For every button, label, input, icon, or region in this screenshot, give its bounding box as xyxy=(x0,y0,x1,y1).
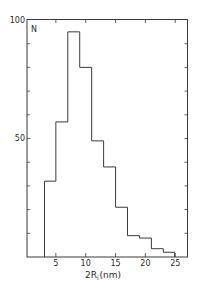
x-tick-label: 15 xyxy=(110,259,120,268)
x-tick-labels: 510152025 xyxy=(53,259,180,268)
y-tick-label-50: 50 xyxy=(15,134,25,143)
x-tick-label: 20 xyxy=(140,259,150,268)
y-axis-title: N xyxy=(31,25,37,34)
x-axis-title-unit: (nm) xyxy=(100,270,122,280)
x-axis-title: 2Ri(nm) xyxy=(85,270,121,281)
axis-ticks xyxy=(27,20,188,258)
x-tick-label: 10 xyxy=(81,259,91,268)
x-tick-label: 25 xyxy=(170,259,180,268)
histogram-outline xyxy=(45,32,175,257)
x-axis-title-main: 2R xyxy=(85,270,97,280)
y-tick-label-100: 100 xyxy=(10,16,25,25)
plot-frame xyxy=(27,20,188,258)
histogram-chart: 100 50 N 510152025 2Ri(nm) xyxy=(0,0,199,294)
x-tick-label: 5 xyxy=(53,259,58,268)
